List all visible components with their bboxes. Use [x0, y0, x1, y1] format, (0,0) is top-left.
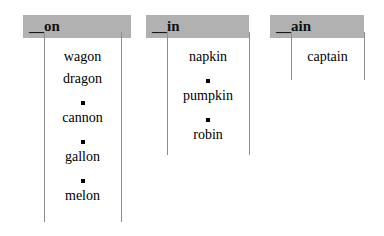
column-rule-right-in — [249, 32, 250, 155]
word-list-ain: captain — [291, 50, 364, 72]
list-separator-bullet — [167, 72, 249, 89]
black-square-icon — [206, 79, 210, 83]
word-list-on: wagon dragon cannon gallon melon — [44, 50, 121, 211]
black-square-icon — [81, 179, 85, 183]
black-square-icon — [81, 101, 85, 105]
list-item: pumpkin — [167, 89, 249, 111]
list-item: dragon — [44, 72, 121, 94]
list-item: melon — [44, 189, 121, 211]
black-square-icon — [206, 118, 210, 122]
list-separator-bullet — [44, 172, 121, 189]
worksheet-board: __on wagon dragon cannon gallon melon __… — [0, 0, 384, 236]
column-rule-right-on — [121, 32, 122, 222]
column-header-label-on: __on — [23, 19, 60, 34]
list-item: robin — [167, 128, 249, 150]
list-separator-bullet — [44, 133, 121, 150]
list-item: cannon — [44, 111, 121, 133]
list-item: wagon — [44, 50, 121, 72]
list-item: captain — [291, 50, 364, 72]
column-header-label-in: __in — [146, 19, 180, 34]
black-square-icon — [81, 140, 85, 144]
column-header-in: __in — [146, 15, 249, 38]
list-item: gallon — [44, 150, 121, 172]
column-header-on: __on — [23, 15, 131, 38]
list-separator-bullet — [167, 111, 249, 128]
list-item: napkin — [167, 50, 249, 72]
column-header-ain: __ain — [270, 15, 364, 38]
word-list-in: napkin pumpkin robin — [167, 50, 249, 150]
column-rule-right-ain — [364, 32, 365, 80]
list-separator-bullet — [44, 94, 121, 111]
